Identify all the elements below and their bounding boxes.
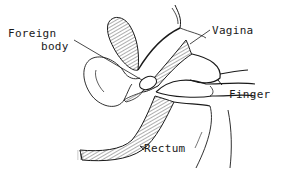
label-finger: Finger — [229, 89, 271, 100]
label-foreign-body-line1: Foreign — [8, 28, 56, 39]
anatomical-diagram: Foreign body Vagina Finger Rectum — [0, 0, 285, 171]
label-foreign-body-line2: body — [41, 41, 69, 52]
label-rectum: Rectum — [144, 143, 186, 154]
label-vagina: Vagina — [212, 25, 254, 36]
